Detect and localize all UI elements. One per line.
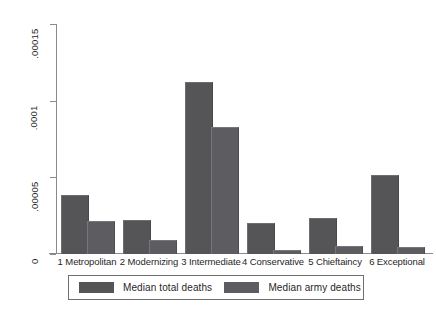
- bar-total-deaths: [247, 223, 275, 254]
- legend: Median total deaths Median army deaths: [68, 275, 364, 300]
- bar-total-deaths: [309, 218, 337, 254]
- plot-area: [56, 24, 428, 254]
- x-tick-label: 6 Exceptional: [358, 256, 436, 267]
- y-tick-label-text: .00015: [29, 29, 40, 59]
- bar-group: [180, 24, 242, 254]
- y-tick-label-text: .0001: [29, 105, 40, 130]
- bar-group: [242, 24, 304, 254]
- bar-army-deaths: [397, 247, 425, 254]
- legend-item-total-deaths: Median total deaths: [69, 282, 214, 293]
- bar-army-deaths: [335, 246, 363, 254]
- bar-group: [56, 24, 118, 254]
- y-tick-mark: [50, 254, 56, 255]
- bar-army-deaths: [273, 250, 301, 254]
- bar-army-deaths: [211, 127, 239, 254]
- y-tick-label-text: 0: [29, 259, 40, 264]
- bar-total-deaths: [185, 82, 213, 254]
- bar-total-deaths: [61, 195, 89, 254]
- y-tick-label-text: .00005: [29, 182, 40, 212]
- bar-group: [366, 24, 428, 254]
- bar-group: [118, 24, 180, 254]
- bar-army-deaths: [149, 240, 177, 254]
- legend-item-army-deaths: Median army deaths: [214, 282, 363, 293]
- legend-label-total-deaths: Median total deaths: [123, 282, 212, 293]
- bar-group: [304, 24, 366, 254]
- bar-army-deaths: [87, 221, 115, 254]
- legend-swatch-army-deaths: [224, 282, 259, 293]
- bar-chart: 0.00005.0001.00015 1 Metropolitan2 Moder…: [0, 0, 436, 312]
- bar-total-deaths: [371, 175, 399, 254]
- legend-swatch-total-deaths: [79, 282, 114, 293]
- bar-total-deaths: [123, 220, 151, 254]
- legend-label-army-deaths: Median army deaths: [268, 282, 360, 293]
